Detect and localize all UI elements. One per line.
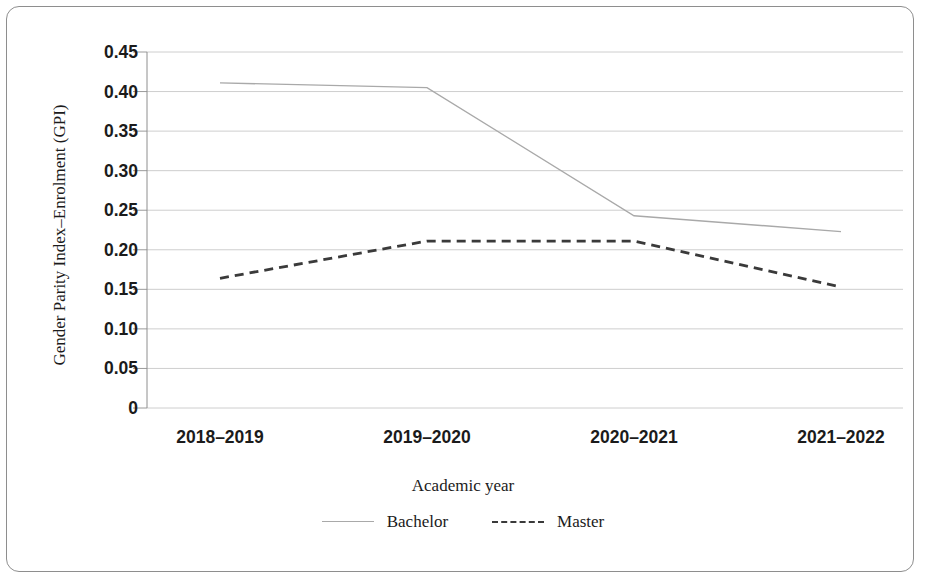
legend-line-swatch-bachelor: [322, 521, 374, 522]
y-axis-title: Gender Parity Index–Enrolment (GPI): [50, 35, 70, 435]
series-line-master: [220, 241, 841, 287]
legend-line-swatch-master: [492, 521, 544, 523]
y-tick-marks-group: [133, 52, 147, 408]
legend-item-bachelor[interactable]: Bachelor: [322, 513, 448, 530]
legend-label-master: Master: [557, 513, 604, 530]
x-tick-label: 2020–2021: [590, 427, 678, 448]
series-line-bachelor: [220, 83, 841, 232]
x-tick-label: 2021–2022: [797, 427, 885, 448]
data-series-group: [220, 83, 841, 287]
x-tick-label: 2019–2020: [383, 427, 471, 448]
x-axis-title: Academic year: [0, 476, 926, 496]
legend-label-bachelor: Bachelor: [387, 513, 448, 530]
chart-legend: Bachelor Master: [0, 513, 926, 530]
legend-item-master[interactable]: Master: [492, 513, 604, 530]
x-tick-label: 2018–2019: [176, 427, 264, 448]
gridlines-group: [147, 52, 903, 408]
